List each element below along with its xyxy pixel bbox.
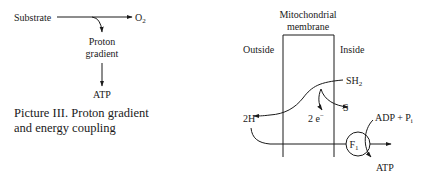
branch-to-gradient-arrow [92, 17, 102, 32]
proton-return-path [251, 128, 346, 144]
caption-line-1: Picture III. Proton gradient [14, 106, 149, 120]
energy-coupling-diagram: Substrate O2 Proton gradient ATP Picture… [14, 12, 149, 135]
atp-product-label: ATP [376, 162, 394, 173]
s-label: S [343, 102, 349, 113]
mitochondrial-membrane-diagram: Mitochondrial membrane Outside Inside SH… [243, 9, 413, 173]
inside-label: Inside [340, 44, 365, 55]
membrane-bracket [283, 35, 334, 38]
atp-label: ATP [93, 89, 111, 100]
electron-arrow [319, 89, 322, 110]
adp-pi-label: ADP + Pi [375, 112, 413, 125]
caption-line-2: and energy coupling [14, 121, 117, 135]
membrane-title-1: Mitochondrial [279, 9, 336, 20]
membrane-title-2: membrane [287, 21, 330, 32]
proton-export-arrow [254, 80, 343, 116]
substrate-label: Substrate [14, 12, 52, 23]
electrons-label: 2 e− [308, 112, 324, 124]
proton-gradient-label-2: gradient [86, 48, 119, 59]
sh2-label: SH2 [346, 75, 363, 88]
oxygen-label: O2 [135, 12, 146, 25]
proton-gradient-label-1: Proton [89, 36, 116, 47]
proton-gradient-figure: Substrate O2 Proton gradient ATP Picture… [0, 0, 428, 178]
outside-label: Outside [243, 44, 275, 55]
protons-label: 2H+ [243, 112, 259, 124]
